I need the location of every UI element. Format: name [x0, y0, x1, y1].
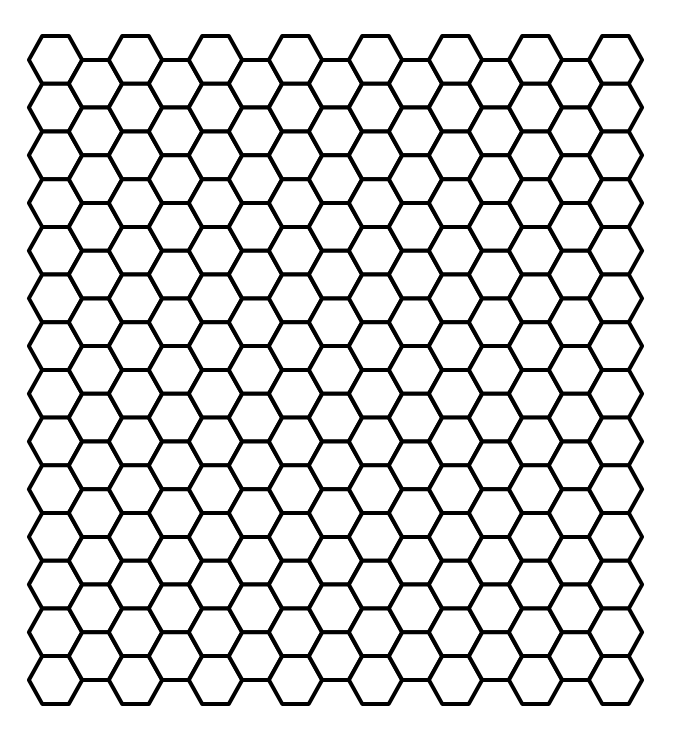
hexagon-cell [589, 609, 642, 657]
hexagon-cell [589, 561, 642, 609]
hexagon-cell [589, 465, 642, 513]
hexagon-cell [589, 418, 642, 466]
hexagon-cell [589, 179, 642, 227]
hexagon-cell [589, 275, 642, 323]
hexagon-cell [589, 36, 642, 84]
hexagon-grid [0, 0, 679, 730]
hexagon-cell [589, 132, 642, 180]
hexagon-cell [589, 322, 642, 370]
hexagon-cell [589, 513, 642, 561]
hexagon-cell [589, 656, 642, 704]
hexagon-cell [589, 227, 642, 275]
hexagon-cell [589, 370, 642, 418]
hexagon-cell [589, 84, 642, 132]
